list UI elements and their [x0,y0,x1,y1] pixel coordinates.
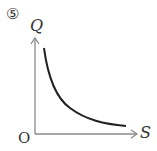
figure-number: ⑤ [6,7,19,22]
origin-label: O [18,131,30,146]
y-axis-label: Q [30,18,43,34]
decreasing-curve [44,48,126,126]
diagram: ⑤ Q O S [0,0,157,151]
x-axis-label: S [140,125,151,141]
